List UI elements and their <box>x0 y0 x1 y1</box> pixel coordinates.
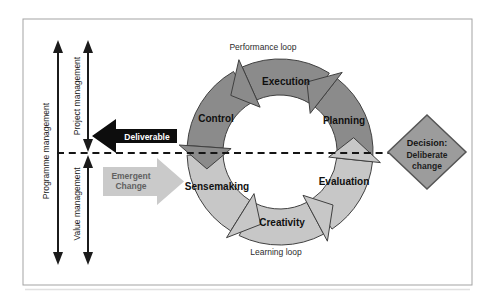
project-management-label: Project management <box>72 56 82 135</box>
performance-loop-caption: Performance loop <box>229 42 296 52</box>
stage-control-label: Control <box>198 113 234 124</box>
decision-label-line1: Decision: <box>407 138 448 148</box>
emergent-label-line1: Emergent <box>111 171 150 181</box>
stage-evaluation-label: Evaluation <box>319 176 370 187</box>
emergent-label-line2: Change <box>115 181 146 191</box>
stage-planning-label: Planning <box>323 115 365 126</box>
decision-label-line3: change <box>412 161 442 171</box>
decision-label-line2: Deliberate <box>406 150 447 160</box>
stage-creativity-label: Creativity <box>259 217 305 228</box>
stage-sensemaking-label: Sensemaking <box>185 181 249 192</box>
deliverable-label: Deliverable <box>124 132 170 142</box>
management-loops-diagram: Programme management Project management … <box>0 0 493 302</box>
learning-loop-caption: Learning loop <box>250 247 302 257</box>
programme-management-label: Programme management <box>41 102 51 199</box>
value-management-label: Value management <box>72 167 82 241</box>
stage-execution-label: Execution <box>262 76 310 87</box>
